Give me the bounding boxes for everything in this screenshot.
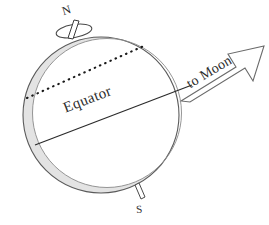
south-pole-label: S [135,204,142,216]
tidal-bulge-diagram: Equator to Moon N S [0,0,269,225]
diagram-canvas [0,0,269,225]
tidal-bulge-ring [0,0,269,225]
